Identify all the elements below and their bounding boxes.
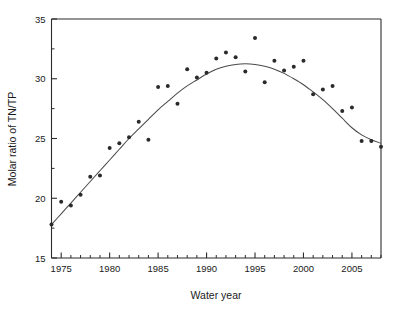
data-point — [108, 146, 112, 150]
x-tick-label: 1990 — [196, 263, 217, 274]
data-point — [59, 200, 63, 204]
data-point — [185, 67, 189, 71]
data-point — [214, 56, 218, 60]
data-point — [98, 174, 102, 178]
data-point — [282, 68, 286, 72]
data-point — [340, 109, 344, 113]
chart-figure: 1520253035 1975198019851990199520002005 … — [0, 0, 412, 312]
data-point — [234, 55, 238, 59]
data-point — [369, 139, 373, 143]
data-point — [272, 59, 276, 63]
data-point — [137, 120, 141, 124]
y-tick-label: 30 — [35, 73, 46, 84]
data-point — [379, 145, 383, 149]
y-tick-label: 20 — [35, 193, 46, 204]
data-point — [69, 203, 73, 207]
data-point — [175, 102, 179, 106]
data-point — [243, 70, 247, 74]
data-point — [350, 105, 354, 109]
data-point — [88, 175, 92, 179]
data-point — [195, 76, 199, 80]
data-point — [331, 84, 335, 88]
data-point — [117, 141, 121, 145]
data-point — [301, 59, 305, 63]
data-point — [156, 85, 160, 89]
data-point — [166, 84, 170, 88]
data-point — [311, 92, 315, 96]
data-point — [292, 65, 296, 69]
scatter-plot-svg: 1520253035 1975198019851990199520002005 … — [0, 0, 412, 312]
x-tick-label: 2005 — [341, 263, 362, 274]
y-axis-title: Molar ratio of TN/TP — [6, 92, 18, 186]
data-point — [50, 223, 54, 227]
x-axis-title: Water year — [191, 289, 242, 301]
x-tick-label: 1995 — [244, 263, 265, 274]
y-tick-label: 15 — [35, 253, 46, 264]
x-tick-label: 1985 — [148, 263, 169, 274]
data-point — [224, 50, 228, 54]
x-tick-label: 1980 — [99, 263, 120, 274]
x-tick-label: 1975 — [51, 263, 72, 274]
x-tick-label: 2000 — [293, 263, 314, 274]
data-point — [127, 135, 131, 139]
y-tick-label: 35 — [35, 14, 46, 25]
data-point — [205, 71, 209, 75]
y-tick-label: 25 — [35, 133, 46, 144]
data-point — [253, 36, 257, 40]
data-point — [79, 193, 83, 197]
data-point — [360, 139, 364, 143]
data-point — [263, 80, 267, 84]
data-point — [321, 88, 325, 92]
data-point — [146, 138, 150, 142]
